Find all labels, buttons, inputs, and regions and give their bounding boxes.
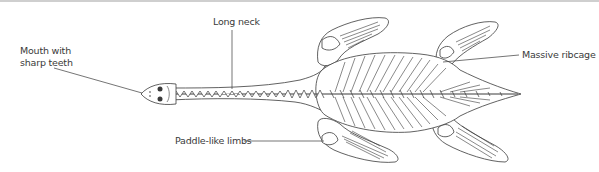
- body-outline: [316, 53, 521, 133]
- label-mouth: Mouth with sharp teeth: [20, 45, 90, 69]
- mouth-leader-line: [54, 68, 142, 93]
- plesiosaur-skeleton-illustration: [0, 0, 599, 172]
- label-ribcage: Massive ribcage: [522, 49, 596, 61]
- label-limbs: Paddle-like limbs: [175, 135, 252, 147]
- skull: [141, 83, 176, 104]
- diagram-canvas: Mouth with sharp teeth Long neck Massive…: [0, 0, 599, 172]
- label-neck: Long neck: [213, 16, 260, 28]
